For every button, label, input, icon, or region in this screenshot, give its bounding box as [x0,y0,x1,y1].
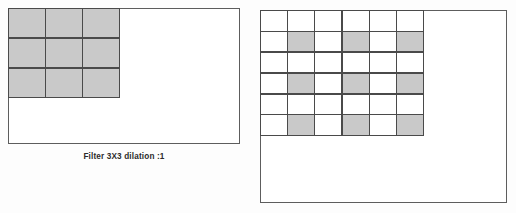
grid-cell-empty [315,32,341,52]
grid-cell-filled [343,32,369,52]
grid-cell-filled [9,69,45,97]
grid-cell-filled [288,74,314,94]
grid-cell-filled [397,32,423,52]
grid-cell-empty [370,115,396,135]
grid-cell-empty [343,95,369,115]
grid-cell-filled [9,39,45,67]
grid-cell-empty [261,11,287,31]
grid-cell-filled [288,115,314,135]
grid-cell-empty [370,53,396,73]
grid-cell-empty [315,11,341,31]
grid-cell-filled [83,9,119,37]
grid-cell-filled [46,9,82,37]
grid-cell-empty [397,11,423,31]
dilated-filter-grid-6x6 [260,10,424,136]
grid-cell-empty [261,95,287,115]
grid-cell-empty [370,11,396,31]
grid-cell-filled [9,9,45,37]
grid-cell-filled [397,74,423,94]
left-figure-caption: Filter 3X3 dilation :1 [8,152,240,161]
grid-cell-filled [83,69,119,97]
grid-cell-empty [343,11,369,31]
grid-cell-filled [288,32,314,52]
grid-cell-filled [397,115,423,135]
grid-cell-empty [370,74,396,94]
grid-cell-empty [315,74,341,94]
grid-cell-empty [288,95,314,115]
grid-cell-filled [46,39,82,67]
grid-cell-empty [261,32,287,52]
grid-cell-filled [343,74,369,94]
filter-grid-3x3 [8,8,120,98]
grid-cell-empty [261,74,287,94]
grid-cell-empty [288,11,314,31]
grid-cell-empty [315,53,341,73]
grid-cell-empty [261,53,287,73]
grid-cell-filled [343,115,369,135]
grid-cell-empty [397,95,423,115]
grid-cell-empty [343,53,369,73]
grid-cell-empty [288,53,314,73]
grid-cell-empty [370,32,396,52]
grid-cell-empty [315,95,341,115]
grid-cell-empty [261,115,287,135]
grid-cell-filled [46,69,82,97]
grid-cell-empty [397,53,423,73]
grid-cell-filled [83,39,119,67]
grid-cell-empty [370,95,396,115]
grid-cell-empty [315,115,341,135]
